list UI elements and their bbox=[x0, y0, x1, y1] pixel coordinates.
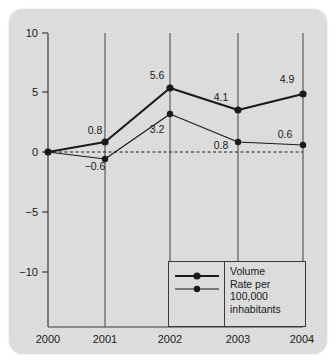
data-label-volume-2001: 0.8 bbox=[80, 125, 110, 136]
series-point-volume-2000 bbox=[44, 148, 51, 155]
series-line-volume bbox=[48, 88, 303, 152]
series-point-volume-2003 bbox=[234, 106, 241, 113]
data-label-volume-2004: 4.9 bbox=[272, 74, 302, 85]
x-tick-label-2004: 2004 bbox=[280, 334, 324, 345]
data-label-rate-2001: −0.6 bbox=[78, 161, 112, 172]
series-point-rate-2002 bbox=[167, 111, 173, 117]
x-tick-label-2001: 2001 bbox=[83, 334, 127, 345]
legend-symbols bbox=[169, 262, 225, 326]
x-tick-label-2003: 2003 bbox=[216, 334, 260, 345]
legend-label-rate-line1: Rate per bbox=[227, 278, 305, 291]
data-label-rate-2002: 3.2 bbox=[142, 124, 172, 135]
chart-figure: 10 5 0 −5 −10 2000 2001 2002 2003 2004 0… bbox=[0, 0, 336, 363]
chart-legend: Volume Rate per 100,000 inhabitants bbox=[168, 261, 306, 327]
y-tick-label-0: 0 bbox=[10, 147, 38, 158]
legend-marker-volume bbox=[193, 272, 200, 279]
series-point-rate-2004 bbox=[300, 142, 306, 148]
y-tick-label-5: 5 bbox=[10, 87, 38, 98]
data-label-volume-2003: 4.1 bbox=[206, 92, 236, 103]
x-tick-label-2002: 2002 bbox=[148, 334, 192, 345]
legend-label-group: Volume Rate per 100,000 inhabitants bbox=[227, 265, 305, 315]
y-tick-label-minus10: −10 bbox=[6, 267, 38, 278]
series-point-volume-2001 bbox=[101, 138, 108, 145]
legend-label-rate-line2: 100,000 bbox=[227, 290, 305, 303]
legend-label-volume: Volume bbox=[227, 265, 305, 278]
series-point-volume-2002 bbox=[166, 84, 173, 91]
data-label-volume-2002: 5.6 bbox=[142, 70, 172, 81]
x-tick-label-2000: 2000 bbox=[26, 334, 70, 345]
legend-label-rate-line3: inhabitants bbox=[227, 303, 305, 316]
legend-marker-rate bbox=[194, 286, 200, 292]
series-point-volume-2004 bbox=[299, 90, 306, 97]
data-label-rate-2003: 0.8 bbox=[206, 140, 236, 151]
y-tick-label-10: 10 bbox=[10, 28, 38, 39]
y-tick-label-minus5: −5 bbox=[10, 207, 38, 218]
data-label-rate-2004: 0.6 bbox=[270, 129, 300, 140]
